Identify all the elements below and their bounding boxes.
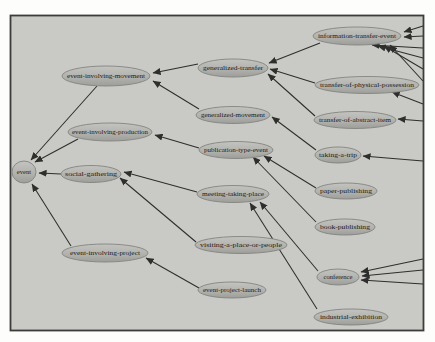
node-label-event-involving-production: event-involving-production xyxy=(72,128,149,135)
graph-viewer-page: event event-involving-movement event-inv… xyxy=(0,0,435,342)
node-label-social-gathering: social-gathering xyxy=(65,170,118,177)
node-visiting-a-place-or-people[interactable]: visiting-a-place-or-people xyxy=(195,237,287,254)
node-transfer-of-physical-possession[interactable]: transfer-of-physical-possession xyxy=(315,77,419,94)
node-label-transfer-of-abstract-item: transfer-of-abstract-item xyxy=(319,116,392,123)
node-label-event-involving-project: event-involving-project xyxy=(70,249,140,256)
node-information-transfer-event[interactable]: information-transfer-event xyxy=(313,27,401,45)
node-label-transfer-of-physical-possession: transfer-of-physical-possession xyxy=(320,81,415,88)
node-label-conference: conference xyxy=(324,273,353,280)
node-label-event-involving-movement: event-involving-movement xyxy=(67,72,145,79)
node-label-meeting-taking-place: meeting-taking-place xyxy=(202,190,264,197)
node-event[interactable]: event xyxy=(12,161,36,183)
node-label-event-project-launch: event-project-launch xyxy=(203,286,262,293)
graph-canvas: event event-involving-movement event-inv… xyxy=(0,0,435,342)
node-label-generalized-movement: generalized-movement xyxy=(201,111,265,118)
node-label-paper-publishing: paper-publishing xyxy=(320,187,373,194)
node-event-involving-movement[interactable]: event-involving-movement xyxy=(62,66,150,86)
node-publication-type-event[interactable]: publication-type-event xyxy=(199,142,273,159)
node-label-visiting-a-place-or-people: visiting-a-place-or-people xyxy=(200,241,282,248)
node-book-publishing[interactable]: book-publishing xyxy=(315,219,375,235)
node-paper-publishing[interactable]: paper-publishing xyxy=(315,183,377,199)
node-meeting-taking-place[interactable]: meeting-taking-place xyxy=(197,186,269,203)
node-label-generalized-transfer: generalized-transfer xyxy=(203,64,264,71)
node-label-industrial-exhibition: industrial-exhibition xyxy=(320,313,383,320)
node-event-involving-production[interactable]: event-involving-production xyxy=(68,123,152,141)
node-transfer-of-abstract-item[interactable]: transfer-of-abstract-item xyxy=(314,112,396,129)
node-taking-a-trip[interactable]: taking-a-trip xyxy=(315,147,361,163)
node-label-information-transfer-event: information-transfer-event xyxy=(318,32,396,39)
node-industrial-exhibition[interactable]: industrial-exhibition xyxy=(314,309,388,325)
node-generalized-transfer[interactable]: generalized-transfer xyxy=(198,59,268,77)
node-label-event: event xyxy=(17,168,31,175)
node-label-book-publishing: book-publishing xyxy=(320,223,371,230)
node-generalized-movement[interactable]: generalized-movement xyxy=(196,107,270,124)
node-conference[interactable]: conference xyxy=(317,269,359,285)
node-label-taking-a-trip: taking-a-trip xyxy=(319,151,358,158)
node-social-gathering[interactable]: social-gathering xyxy=(61,166,121,183)
node-event-project-launch[interactable]: event-project-launch xyxy=(198,282,266,298)
node-label-publication-type-event: publication-type-event xyxy=(204,146,268,153)
node-event-involving-project[interactable]: event-involving-project xyxy=(62,244,148,262)
